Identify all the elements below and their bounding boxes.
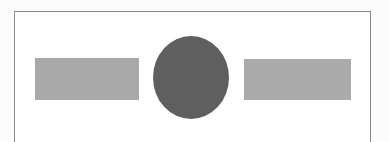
right-rectangle [244, 59, 351, 100]
left-rectangle [35, 58, 139, 100]
diagram-canvas [0, 0, 389, 142]
center-circle [153, 36, 229, 119]
